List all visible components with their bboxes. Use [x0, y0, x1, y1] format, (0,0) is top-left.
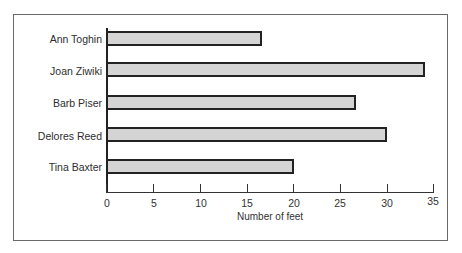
bar-chart: Ann Toghin Joan Ziwiki Barb Piser Delore…	[0, 0, 462, 253]
x-tick	[433, 184, 434, 192]
category-label: Barb Piser	[53, 97, 102, 109]
x-tick	[247, 184, 248, 192]
x-tick	[106, 184, 107, 192]
x-tick	[340, 184, 341, 192]
bar-tina-baxter	[106, 159, 294, 174]
bar-joan-ziwiki	[106, 62, 425, 77]
x-tick	[153, 184, 154, 192]
x-tick-label: 0	[104, 197, 110, 209]
category-label: Delores Reed	[38, 130, 102, 142]
x-axis-title: Number of feet	[237, 211, 303, 223]
bar-delores-reed	[106, 127, 387, 142]
x-tick-label: 15	[241, 197, 253, 209]
x-tick-label: 25	[334, 197, 346, 209]
x-tick-label: 10	[195, 197, 207, 209]
x-tick-label: 35	[427, 195, 439, 207]
bar-ann-toghin	[106, 31, 262, 46]
category-label: Tina Baxter	[49, 161, 102, 173]
y-axis	[106, 28, 108, 193]
x-tick	[200, 184, 201, 192]
x-tick-label: 30	[381, 197, 393, 209]
x-tick-label: 20	[288, 197, 300, 209]
x-axis	[106, 192, 434, 193]
x-tick	[293, 184, 294, 192]
x-tick	[387, 184, 388, 192]
bar-barb-piser	[106, 95, 356, 110]
category-label: Joan Ziwiki	[50, 65, 102, 77]
category-label: Ann Toghin	[50, 33, 102, 45]
x-tick-label: 5	[151, 197, 157, 209]
